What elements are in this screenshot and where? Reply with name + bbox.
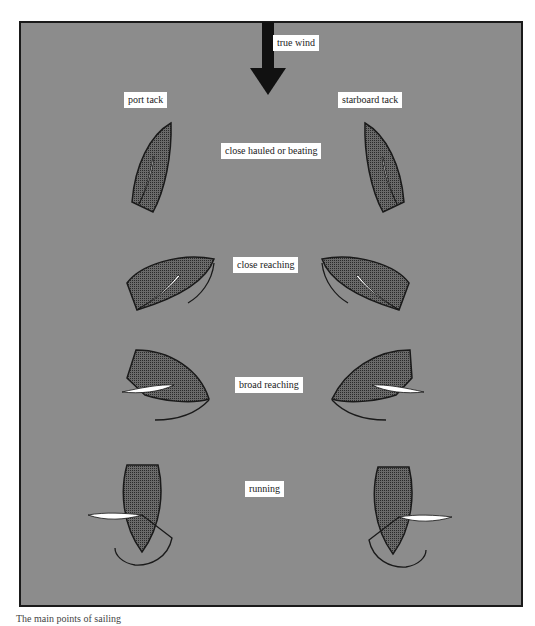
running-label: running [245, 481, 284, 497]
boat-port-close-reaching [127, 257, 214, 310]
boat-starboard-running [369, 467, 452, 567]
wind-arrow-icon [250, 22, 286, 95]
broad-reaching-label: broad reaching [235, 377, 303, 393]
port-tack-label: port tack [124, 92, 167, 108]
points-of-sail-diagram [0, 0, 535, 626]
close-hauled-label: close hauled or beating [221, 143, 321, 159]
boat-starboard-broad-reaching [332, 350, 424, 420]
boat-port-broad-reaching [122, 350, 209, 420]
close-reaching-label: close reaching [233, 257, 298, 273]
true-wind-label: true wind [273, 35, 319, 51]
boat-starboard-close-reaching [322, 257, 409, 310]
boat-starboard-close-hauled [365, 123, 404, 212]
figure-caption: The main points of sailing [16, 613, 121, 624]
boat-port-close-hauled [132, 123, 171, 212]
starboard-tack-label: starboard tack [338, 92, 402, 108]
boat-port-running [88, 465, 172, 565]
